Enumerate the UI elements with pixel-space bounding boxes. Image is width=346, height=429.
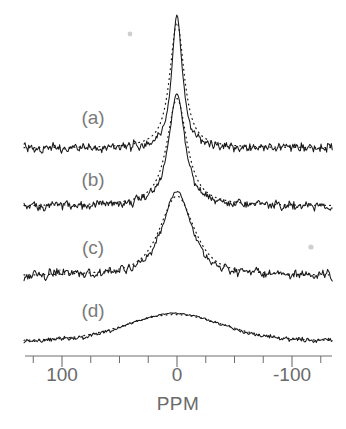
spectrum-trace-b-dotted (24, 99, 332, 206)
panel-label-b: (b) (81, 169, 104, 190)
tick-label-minus100: -100 (273, 364, 311, 385)
spectrum-trace-a-solid (24, 15, 332, 153)
panel-label-d: (d) (81, 300, 104, 321)
trace-group (24, 15, 332, 343)
tick-label-0: 0 (172, 364, 183, 385)
spectrum-trace-a-dotted (24, 23, 332, 148)
tick-label-100: 100 (46, 364, 78, 385)
axis-title-ppm: PPM (157, 393, 200, 414)
nmr-figure: (a) (b) (c) (d) 100 0 -100 PPM (0, 0, 346, 429)
panel-labels: (a) (b) (c) (d) (81, 107, 104, 321)
panel-label-c: (c) (82, 237, 104, 258)
panel-label-a: (a) (81, 107, 104, 128)
spectra-plot: (a) (b) (c) (d) 100 0 -100 PPM (0, 0, 346, 429)
spectrum-trace-b-solid (24, 94, 332, 211)
spectrum-trace-d-solid (24, 313, 332, 343)
x-axis: 100 0 -100 PPM (25, 356, 332, 414)
